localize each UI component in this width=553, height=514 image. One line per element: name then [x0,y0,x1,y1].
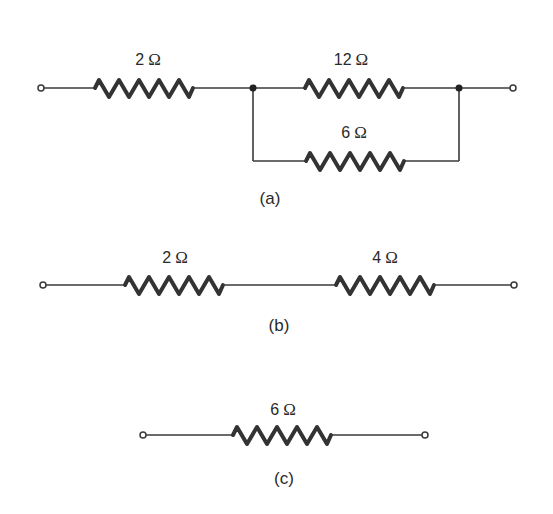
ohm-unit: Ω [356,50,369,69]
junction-node-icon [456,85,463,92]
junction-node-icon [250,85,257,92]
ohm-unit: Ω [354,123,367,142]
resistor-label-c-6ohm: 6Ω [270,402,296,418]
resistor-label-a-12ohm: 12Ω [334,52,368,68]
resistor-2-ohm-icon [95,80,193,97]
terminal-icon [40,282,46,288]
ohm-unit: Ω [175,248,188,267]
resistor-2-ohm-icon [125,277,223,294]
resistor-4-ohm-icon [336,277,434,294]
resistor-value: 6 [270,401,279,418]
resistor-value: 4 [372,249,381,266]
resistor-6-ohm-icon [233,427,331,444]
terminal-icon [510,85,516,91]
resistor-label-b-2ohm: 2Ω [162,250,188,266]
ohm-unit: Ω [148,50,161,69]
resistor-value: 2 [162,249,171,266]
resistor-value: 12 [334,51,352,68]
circuit-diagram [0,0,553,514]
resistor-value: 6 [341,124,350,141]
resistor-value: 2 [135,51,144,68]
caption-b: (b) [269,317,290,334]
resistor-label-b-4ohm: 4Ω [372,250,398,266]
circuit-a [38,80,516,170]
caption-c: (c) [274,470,294,487]
resistor-label-a-2ohm: 2Ω [135,52,161,68]
terminal-icon [38,85,44,91]
resistor-label-a-6ohm: 6Ω [341,125,367,141]
resistor-12-ohm-icon [305,80,403,97]
caption-a: (a) [260,190,281,207]
circuit-b [40,277,517,294]
circuit-c [140,427,428,444]
ohm-unit: Ω [283,400,296,419]
resistor-6-ohm-icon [306,153,404,170]
terminal-icon [511,282,517,288]
terminal-icon [422,432,428,438]
terminal-icon [140,432,146,438]
ohm-unit: Ω [385,248,398,267]
